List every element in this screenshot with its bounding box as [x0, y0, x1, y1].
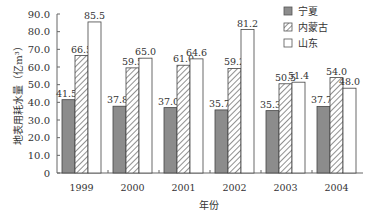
legend-swatch-内蒙古 — [284, 23, 292, 31]
data-label: 54.0 — [326, 66, 347, 77]
data-label: 35.7 — [209, 98, 230, 109]
y-tick-label: 80.0 — [28, 26, 50, 37]
bar-内蒙古-1999 — [75, 56, 88, 173]
bar-内蒙古-2000 — [126, 68, 139, 173]
x-tick-label: 1999 — [69, 182, 93, 193]
data-label: 37.0 — [158, 96, 179, 107]
bar-山东-2001 — [190, 59, 203, 173]
bar-山东-2003 — [292, 82, 305, 173]
y-tick-label: 50.0 — [28, 79, 50, 90]
data-label: 85.5 — [84, 10, 105, 21]
x-tick-label: 2000 — [120, 182, 144, 193]
bar-chart: 010.020.030.040.050.060.070.080.090.0199… — [0, 0, 371, 220]
data-label: 65.0 — [135, 46, 156, 57]
bar-山东-1999 — [88, 22, 101, 173]
y-tick-label: 10.0 — [28, 150, 50, 161]
bar-内蒙古-2001 — [177, 65, 190, 173]
data-label: 37.7 — [311, 94, 332, 105]
y-axis-label: 地表用耗水量（亿m³） — [12, 41, 24, 145]
bar-内蒙古-2003 — [279, 84, 292, 173]
y-tick-label: 40.0 — [28, 97, 50, 108]
y-tick-label: 70.0 — [28, 44, 50, 55]
bar-宁夏-2003 — [266, 111, 279, 173]
bar-宁夏-2001 — [164, 108, 177, 173]
bar-宁夏-2000 — [113, 106, 126, 173]
legend-swatch-山东 — [284, 39, 292, 47]
x-tick-label: 2002 — [222, 182, 246, 193]
bar-内蒙古-2002 — [228, 68, 241, 173]
legend-label: 山东 — [298, 37, 318, 49]
legend-swatch-宁夏 — [284, 7, 292, 15]
bar-宁夏-2002 — [215, 110, 228, 173]
y-tick-label: 30.0 — [28, 115, 50, 126]
x-tick-label: 2004 — [324, 182, 348, 193]
data-label: 51.4 — [288, 70, 309, 81]
bar-宁夏-1999 — [62, 100, 75, 173]
bar-内蒙古-2004 — [330, 78, 343, 173]
bar-山东-2002 — [241, 30, 254, 173]
y-tick-label: 20.0 — [28, 132, 50, 143]
bar-宁夏-2004 — [317, 106, 330, 173]
y-tick-label: 90.0 — [28, 9, 50, 20]
bars: 41.566.585.537.859.565.037.061.064.635.7… — [56, 10, 360, 173]
data-label: 48.0 — [339, 76, 360, 87]
data-label: 81.2 — [237, 18, 258, 29]
y-tick-label: 60.0 — [28, 62, 50, 73]
legend: 宁夏内蒙古山东 — [284, 5, 328, 49]
data-label: 35.3 — [260, 99, 281, 110]
legend-label: 内蒙古 — [298, 21, 328, 33]
chart-canvas: 010.020.030.040.050.060.070.080.090.0199… — [0, 0, 371, 220]
data-label: 64.6 — [186, 47, 207, 58]
data-label: 41.5 — [56, 88, 77, 99]
x-axis-label: 年份 — [199, 199, 219, 211]
data-label: 37.8 — [107, 94, 128, 105]
y-tick-label: 0 — [44, 168, 50, 179]
bar-山东-2004 — [343, 88, 356, 173]
x-tick-label: 2001 — [171, 182, 195, 193]
legend-label: 宁夏 — [298, 5, 318, 17]
x-tick-label: 2003 — [273, 182, 297, 193]
bar-山东-2000 — [139, 58, 152, 173]
